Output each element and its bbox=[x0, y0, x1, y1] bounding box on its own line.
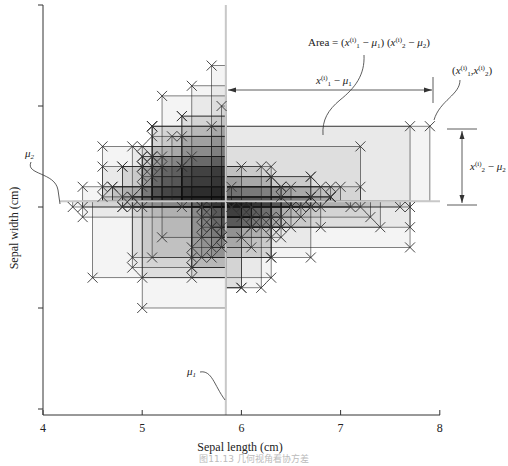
deviation-rectangles bbox=[73, 66, 430, 308]
figure-caption: 图11.13 几何视角看协方差 bbox=[0, 452, 508, 465]
x-tick-label: 7 bbox=[338, 421, 344, 435]
mu2-label: μ2 bbox=[24, 147, 35, 161]
dy-arrow-top-head bbox=[460, 131, 465, 139]
x-tick-label: 8 bbox=[437, 421, 443, 435]
dy-label: x(i)2 − μ2 bbox=[469, 160, 506, 174]
area-leader-curve bbox=[323, 55, 364, 135]
x-tick-label: 6 bbox=[238, 421, 244, 435]
x-ticks: 45678 bbox=[40, 410, 443, 435]
point-label: (x(i)1,x(i)2) bbox=[452, 64, 492, 78]
mu2-leader-curve bbox=[30, 162, 60, 204]
dx-arrow-left-head bbox=[228, 88, 236, 93]
deviation-rectangle bbox=[226, 167, 261, 202]
point-leader-curve bbox=[434, 80, 460, 120]
x-tick-label: 5 bbox=[139, 421, 145, 435]
dy-arrow-bottom-head bbox=[460, 195, 465, 203]
x-tick-label: 4 bbox=[40, 421, 46, 435]
y-ticks bbox=[38, 5, 43, 409]
area-formula: Area = (x(i)1 − μ1) (x(i)2 − μ2) bbox=[308, 36, 430, 50]
y-axis-label: Sepal width (cm) bbox=[7, 187, 21, 270]
covariance-scatter-chart: 45678 Sepal length (cm) Sepal width (cm)… bbox=[0, 0, 508, 466]
dx-label: x(i)1 − μ1 bbox=[315, 74, 352, 88]
mu1-leader-curve bbox=[200, 372, 225, 400]
dx-arrow-right-head bbox=[424, 88, 432, 93]
mu1-label: μ1 bbox=[186, 365, 196, 379]
deviation-rectangle bbox=[142, 177, 226, 202]
